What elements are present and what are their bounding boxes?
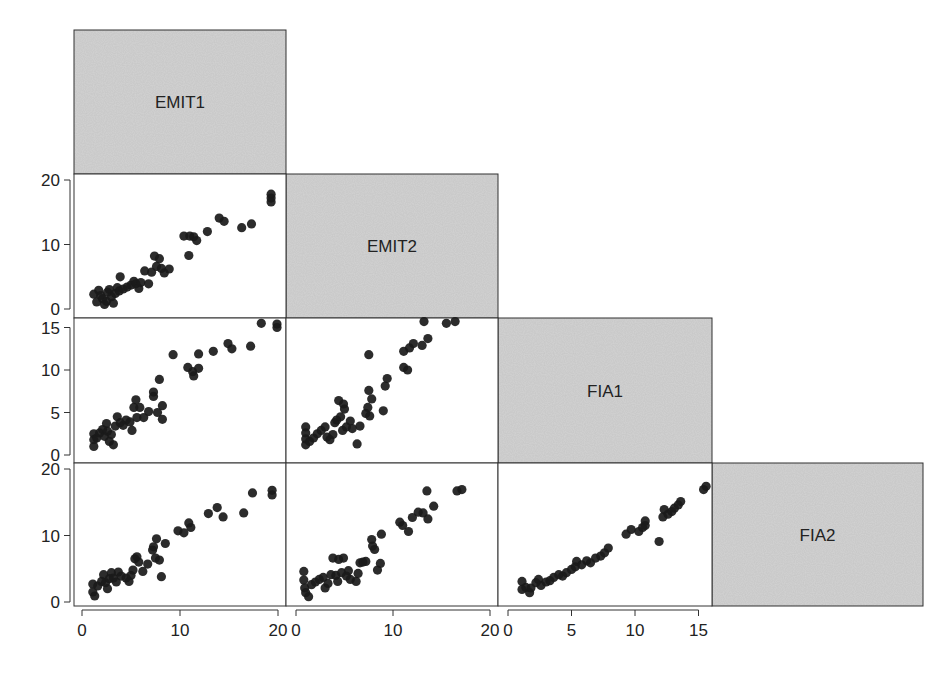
scatterplot-matrix: EMIT1EMIT2FIA1FIA2 010200510150102001020…: [0, 0, 950, 673]
x-tick-label: 0: [77, 621, 86, 640]
data-point: [272, 323, 281, 332]
x-tick-label: 10: [171, 621, 190, 640]
data-point: [333, 577, 342, 586]
x-axis-emit1: 01020: [77, 610, 287, 640]
data-point: [247, 219, 256, 228]
x-tick-label: 5: [567, 621, 576, 640]
data-point: [161, 539, 170, 548]
data-point: [361, 557, 370, 566]
y-tick-label: 0: [51, 593, 60, 612]
x-axis-fia1: 051015: [503, 610, 708, 640]
x-tick-label: 0: [291, 621, 300, 640]
data-point: [149, 392, 158, 401]
y-tick-label: 10: [41, 236, 60, 255]
data-point: [227, 344, 236, 353]
data-point: [144, 279, 153, 288]
x-tick-label: 20: [269, 621, 288, 640]
data-point: [376, 559, 385, 568]
data-point: [237, 223, 246, 232]
data-point: [423, 514, 432, 523]
data-point: [409, 339, 418, 348]
data-point: [367, 394, 376, 403]
data-point: [144, 407, 153, 416]
x-tick-label: 10: [384, 621, 403, 640]
variable-label: FIA2: [800, 526, 836, 545]
data-point: [219, 512, 228, 521]
data-point: [135, 403, 144, 412]
data-point: [299, 567, 308, 576]
data-point: [143, 560, 152, 569]
variable-label: EMIT2: [367, 237, 417, 256]
y-axis-fia2: 01020: [41, 460, 70, 612]
data-point: [457, 485, 466, 494]
data-point: [165, 264, 174, 273]
data-point: [641, 521, 650, 530]
x-tick-label: 10: [626, 621, 645, 640]
data-point: [194, 364, 203, 373]
data-point: [419, 317, 428, 326]
data-point: [379, 406, 388, 415]
x-tick-label: 0: [503, 621, 512, 640]
diagonal-cell-emit1: EMIT1: [74, 30, 286, 174]
data-point: [116, 272, 125, 281]
data-point: [220, 217, 229, 226]
data-point: [383, 374, 392, 383]
data-point: [209, 347, 218, 356]
data-point: [109, 440, 118, 449]
data-point: [403, 365, 412, 374]
data-point: [90, 591, 99, 600]
data-point: [203, 227, 212, 236]
panel-emit2-vs-fia1: [286, 318, 498, 463]
data-point: [353, 439, 362, 448]
data-point: [189, 371, 198, 380]
data-point: [109, 299, 118, 308]
data-point: [204, 509, 213, 518]
data-point: [422, 486, 431, 495]
y-tick-label: 5: [51, 404, 60, 423]
data-point: [169, 350, 178, 359]
data-point: [321, 422, 330, 431]
y-tick-label: 10: [41, 361, 60, 380]
y-tick-label: 20: [41, 460, 60, 479]
data-point: [157, 572, 166, 581]
data-point: [352, 577, 361, 586]
data-point: [149, 542, 158, 551]
data-point: [451, 317, 460, 326]
data-point: [257, 319, 266, 328]
data-point: [364, 386, 373, 395]
diagonal-cell-fia1: FIA1: [498, 318, 712, 463]
diagonal-cell-fia2: FIA2: [712, 463, 923, 606]
data-point: [676, 497, 685, 506]
data-point: [186, 523, 195, 532]
data-point: [107, 430, 116, 439]
y-tick-label: 0: [51, 300, 60, 319]
data-point: [155, 556, 164, 565]
data-point: [604, 544, 613, 553]
data-point: [155, 375, 164, 384]
data-point: [127, 426, 136, 435]
data-point: [339, 554, 348, 563]
data-point: [328, 430, 337, 439]
variable-label: EMIT1: [155, 93, 205, 112]
y-axis-emit2: 01020: [41, 171, 70, 319]
y-tick-label: 10: [41, 527, 60, 546]
data-point: [268, 490, 277, 499]
data-point: [323, 579, 332, 588]
y-axis-fia1: 051015: [41, 319, 70, 466]
data-point: [103, 584, 112, 593]
data-point: [304, 592, 313, 601]
data-point: [344, 566, 353, 575]
data-point: [136, 278, 145, 287]
diagonal-cell-emit2: EMIT2: [286, 174, 498, 318]
x-tick-label: 15: [689, 621, 708, 640]
data-point: [128, 566, 137, 575]
x-axis-emit2: 01020: [291, 610, 499, 640]
data-point: [429, 502, 438, 511]
data-point: [702, 482, 711, 491]
data-point: [152, 534, 161, 543]
data-point: [194, 349, 203, 358]
data-point: [239, 508, 248, 517]
data-point: [158, 415, 167, 424]
data-point: [355, 422, 364, 431]
data-point: [134, 558, 143, 567]
